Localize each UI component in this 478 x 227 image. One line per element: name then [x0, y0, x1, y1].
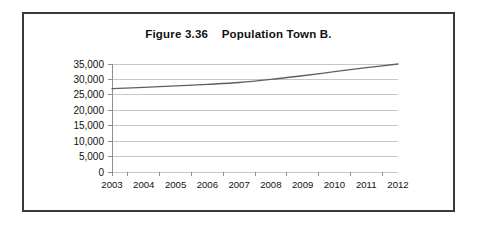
y-axis-tick-label: 20,000 [73, 105, 104, 116]
figure-frame: Figure 3.36 Population Town B. 05,00010,… [22, 12, 455, 212]
y-axis-tick-label: 0 [98, 167, 104, 178]
y-axis-tick-label: 10,000 [73, 136, 104, 147]
y-axis-tick-label: 25,000 [73, 89, 104, 100]
x-axis-labels-group: 2003200420052006200720082009201020112012 [101, 179, 408, 190]
chart-plot-area: 05,00010,00015,00020,00025,00030,00035,0… [24, 14, 457, 214]
x-axis-tick-label: 2011 [356, 179, 377, 190]
x-axis-tick-label: 2008 [260, 179, 281, 190]
line-chart: 05,00010,00015,00020,00025,00030,00035,0… [24, 14, 457, 214]
y-axis-ticks-group [108, 64, 112, 172]
x-axis-tick-label: 2010 [324, 179, 345, 190]
y-axis-tick-label: 15,000 [73, 120, 104, 131]
y-axis-labels-group: 05,00010,00015,00020,00025,00030,00035,0… [73, 59, 104, 178]
x-axis-tick-label: 2012 [387, 179, 408, 190]
series-line-population-town-b [112, 64, 398, 89]
gridlines-group [112, 64, 398, 172]
x-axis-tick-label: 2009 [292, 179, 313, 190]
x-axis-tick-label: 2006 [197, 179, 218, 190]
x-axis-tick-label: 2004 [133, 179, 155, 190]
x-axis-ticks-group [128, 172, 382, 176]
x-axis-tick-label: 2005 [165, 179, 186, 190]
x-axis-tick-label: 2007 [228, 179, 249, 190]
y-axis-tick-label: 30,000 [73, 74, 104, 85]
y-axis-tick-label: 5,000 [79, 151, 104, 162]
y-axis-tick-label: 35,000 [73, 59, 104, 70]
x-axis-tick-label: 2003 [101, 179, 122, 190]
